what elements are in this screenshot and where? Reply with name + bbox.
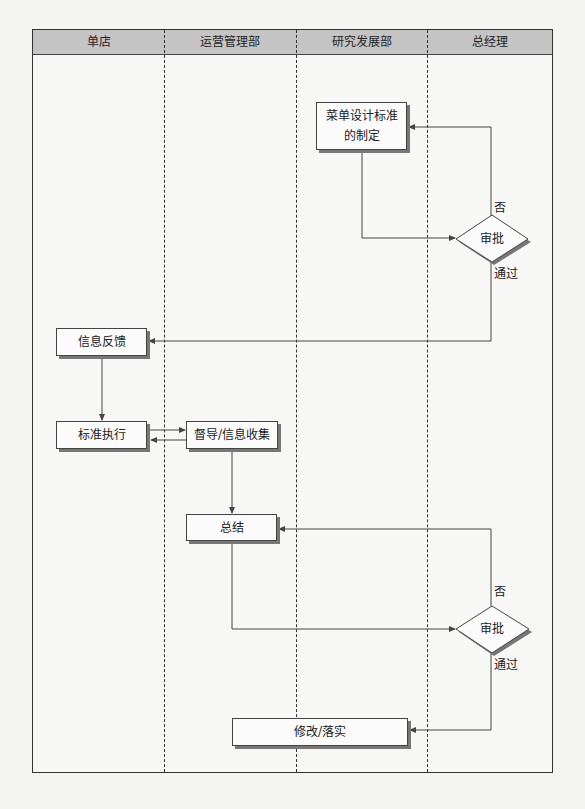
swimlane-header: 单店 运营管理部 研究发展部 总经理 bbox=[33, 30, 552, 55]
approval-1-pass-label: 通过 bbox=[494, 264, 518, 281]
node-revise-implement[interactable]: 修改/落实 bbox=[232, 718, 408, 746]
node-menu-design-standard[interactable]: 菜单设计标准 的制定 bbox=[316, 102, 407, 150]
approval-2-pass-label: 通过 bbox=[494, 655, 518, 672]
approval-1-reject-label: 否 bbox=[494, 198, 506, 215]
swimlane-frame: 单店 运营管理部 研究发展部 总经理 bbox=[32, 29, 553, 773]
node-summary[interactable]: 总结 bbox=[186, 514, 277, 541]
lane-title-rnd: 研究发展部 bbox=[296, 30, 427, 54]
approval-1-label[interactable]: 审批 bbox=[456, 231, 528, 247]
lane-divider bbox=[296, 30, 297, 772]
node-supervision-info-collection[interactable]: 督导/信息收集 bbox=[186, 421, 278, 449]
node-text-line: 菜单设计标准 bbox=[326, 106, 398, 126]
node-info-feedback[interactable]: 信息反馈 bbox=[56, 328, 147, 356]
lane-title-gm: 总经理 bbox=[427, 30, 552, 54]
node-standard-execution[interactable]: 标准执行 bbox=[56, 421, 147, 449]
lane-title-store: 单店 bbox=[33, 30, 164, 54]
lane-divider bbox=[427, 30, 428, 772]
lane-title-operations: 运营管理部 bbox=[164, 30, 296, 54]
node-text-line: 的制定 bbox=[344, 126, 380, 146]
approval-2-label[interactable]: 审批 bbox=[456, 621, 528, 637]
approval-2-reject-label: 否 bbox=[494, 582, 506, 599]
lane-divider bbox=[164, 30, 165, 772]
